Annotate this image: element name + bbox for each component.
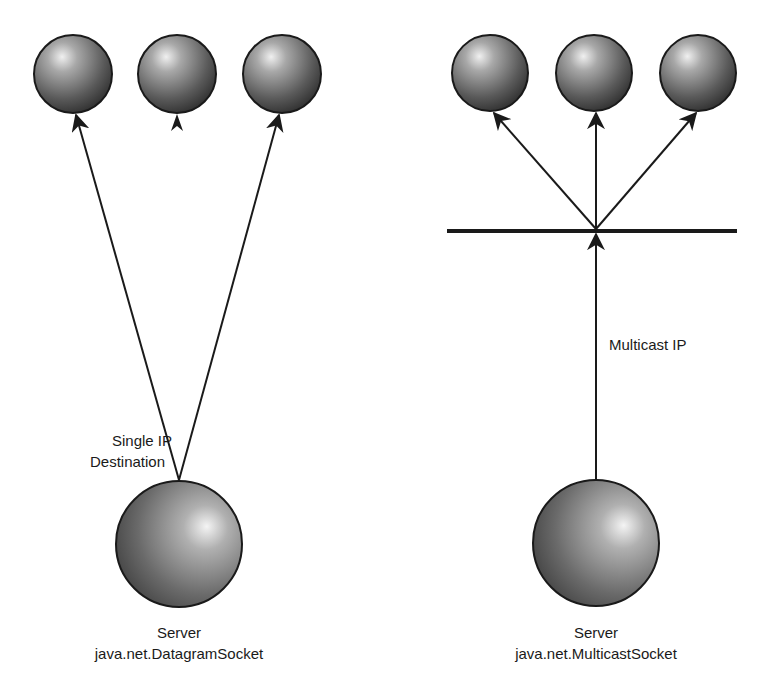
client-node-6	[660, 35, 736, 111]
arrow-to-client-1	[76, 115, 179, 480]
server-class-datagram: java.net.DatagramSocket	[95, 644, 263, 664]
arrowhead-client-2-icon	[171, 114, 183, 131]
multicast-ip-label: Multicast IP	[609, 335, 687, 355]
server-label-right: Server	[574, 623, 618, 643]
client-node-5	[556, 35, 632, 111]
unicast-diagram	[34, 35, 321, 607]
server-node-multicast	[533, 480, 659, 606]
arrow-to-client-3	[179, 115, 279, 480]
server-node-datagram	[116, 481, 242, 607]
multicast-diagram	[447, 35, 737, 606]
single-ip-label-line2: Destination	[40, 452, 165, 472]
server-label-left: Server	[157, 623, 201, 643]
client-node-3	[243, 35, 321, 113]
arrow-to-client-4	[494, 113, 596, 229]
client-node-1	[34, 35, 112, 113]
arrow-to-client-6	[596, 113, 696, 229]
server-class-multicast: java.net.MulticastSocket	[515, 644, 677, 664]
client-node-4	[452, 35, 528, 111]
client-node-2	[138, 35, 216, 113]
single-ip-label-line1: Single IP	[60, 431, 172, 451]
